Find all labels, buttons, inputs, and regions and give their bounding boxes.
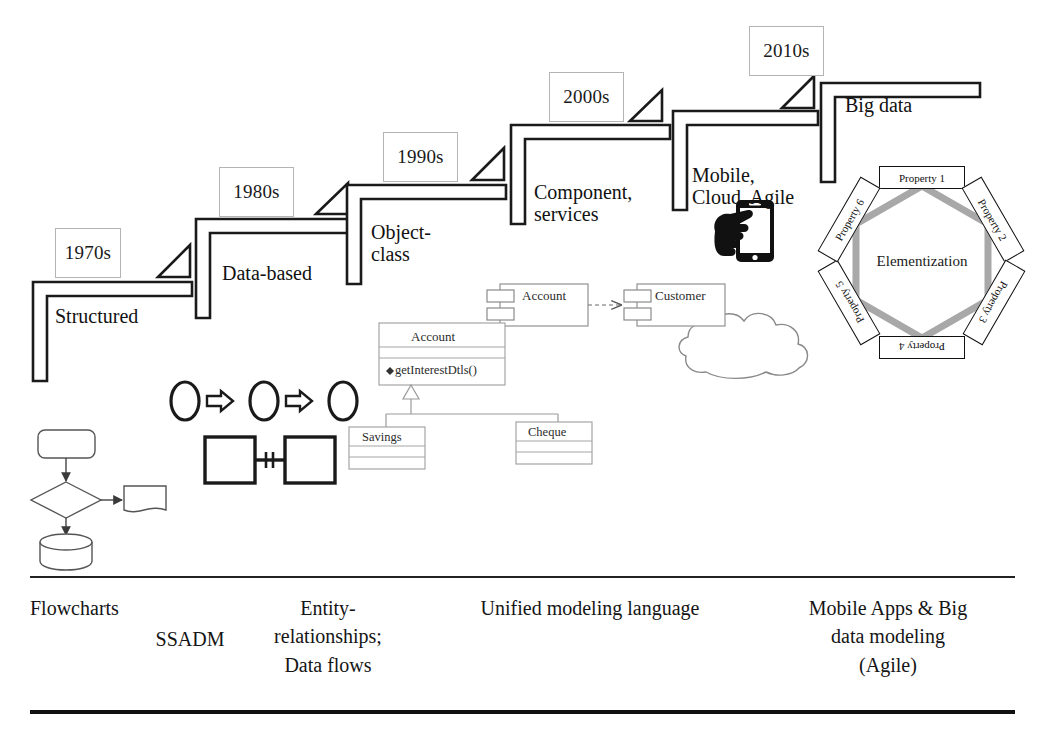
stair-triangle-1980s xyxy=(316,183,348,214)
class-operation-getinterestdtls: getInterestDtls() xyxy=(395,363,477,378)
caption-uml: Unified modeling language xyxy=(440,594,740,622)
caption-flowcharts: Flowcharts xyxy=(30,594,210,622)
year-box-2010s: 2010s xyxy=(749,26,824,76)
class-label-account: Account xyxy=(411,329,455,345)
hand-holding-phone-icon xyxy=(714,200,774,262)
year-label: 2000s xyxy=(563,86,609,108)
year-box-1990s: 1990s xyxy=(383,132,458,182)
year-label: 2010s xyxy=(763,40,809,62)
figure-canvas: 1970s 1980s 1990s 2000s 2010s Structured… xyxy=(0,0,1045,733)
uml-class-diagram xyxy=(349,323,592,469)
stair-label-component-services: Component, services xyxy=(534,181,632,226)
year-label: 1970s xyxy=(65,242,111,264)
stair-label-object-class: Object- class xyxy=(371,221,431,266)
year-label: 1980s xyxy=(233,181,279,203)
year-box-1980s: 1980s xyxy=(219,167,294,217)
process-chain-icon xyxy=(171,382,357,420)
component-label-customer: Customer xyxy=(655,288,706,304)
stair-label-big-data: Big data xyxy=(845,94,912,116)
entity-relationship-icon xyxy=(205,437,335,483)
stair-triangle-1990s xyxy=(472,148,504,180)
stair-label-structured: Structured xyxy=(55,305,138,327)
stair-triangle-1970s xyxy=(158,245,190,277)
stair-label-mobile-cloud-agile: Mobile, Cloud, Agile xyxy=(692,164,794,209)
stair-step-1970s xyxy=(33,282,192,381)
year-label: 1990s xyxy=(397,146,443,168)
stair-triangle-2000s xyxy=(630,90,662,121)
caption-entity-relationships: Entity- relationships; Data flows xyxy=(238,594,418,679)
component-label-account: Account xyxy=(522,288,566,304)
flowchart-icon xyxy=(31,430,166,570)
year-box-2000s: 2000s xyxy=(549,72,624,122)
hexagon-center-label: Elementization xyxy=(872,253,972,270)
property-chip-1[interactable]: Property 1 xyxy=(879,166,965,189)
stair-triangle-mobile xyxy=(782,76,814,108)
property-chip-4[interactable]: Property 4 xyxy=(879,336,965,359)
class-label-savings: Savings xyxy=(362,430,402,445)
class-label-cheque: Cheque xyxy=(528,425,566,440)
caption-mobile-bigdata: Mobile Apps & Big data modeling (Agile) xyxy=(768,594,1008,679)
stair-label-data-based: Data-based xyxy=(222,262,312,284)
year-box-1970s: 1970s xyxy=(55,228,121,278)
